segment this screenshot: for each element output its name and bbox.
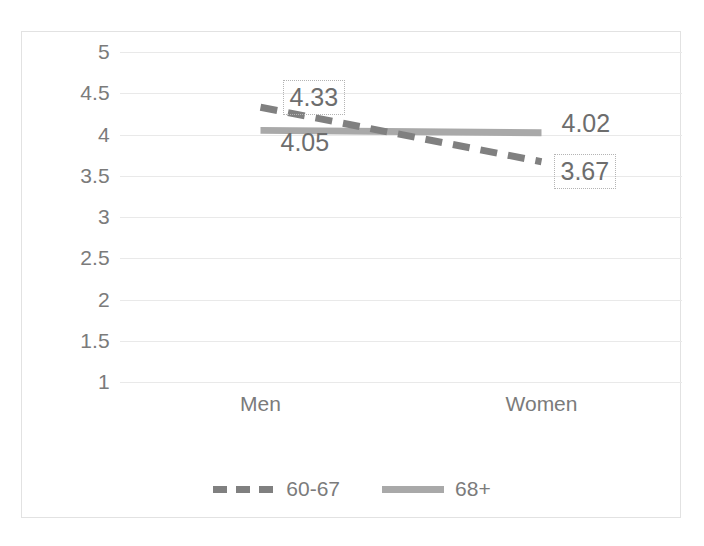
data-label-men-60-67: 4.33 <box>283 80 346 115</box>
y-axis: 5 4.5 4 3.5 3 2.5 2 1.5 1 <box>22 52 110 382</box>
x-axis: Men Women <box>120 392 682 426</box>
data-label-women-68plus: 4.02 <box>556 107 617 140</box>
gridline <box>120 382 682 383</box>
y-tick-label: 3 <box>40 205 110 229</box>
legend-swatch-dashed-icon <box>213 486 275 493</box>
data-label-men-68plus: 4.05 <box>275 126 336 159</box>
legend-item-60-67[interactable]: 60-67 <box>213 477 340 501</box>
series-plot <box>120 52 682 382</box>
y-tick-label: 4.5 <box>40 81 110 105</box>
y-tick-label: 2.5 <box>40 246 110 270</box>
legend-swatch-solid-icon <box>382 486 444 493</box>
x-tick-label-women: Women <box>506 392 578 416</box>
legend-label-60-67: 60-67 <box>286 477 340 501</box>
legend: 60-67 68+ <box>22 469 682 509</box>
data-label-women-60-67: 3.67 <box>554 154 617 189</box>
y-tick-label: 2 <box>40 288 110 312</box>
legend-label-68plus: 68+ <box>455 477 491 501</box>
x-tick-label-men: Men <box>240 392 281 416</box>
plot-area: 4.33 4.05 4.02 3.67 <box>120 52 682 382</box>
chart-container: 5 4.5 4 3.5 3 2.5 2 1.5 1 4.33 4.05 4.02… <box>21 31 681 518</box>
y-tick-label: 3.5 <box>40 164 110 188</box>
y-tick-label: 1 <box>40 370 110 394</box>
y-tick-label: 5 <box>40 40 110 64</box>
legend-item-68plus[interactable]: 68+ <box>382 477 491 501</box>
y-tick-label: 1.5 <box>40 329 110 353</box>
y-tick-label: 4 <box>40 123 110 147</box>
